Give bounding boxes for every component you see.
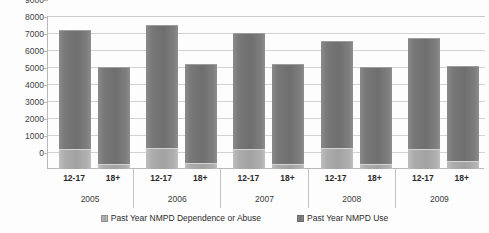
bar-2008-18+	[360, 67, 392, 169]
bar-segment-dependence-or-abuse	[233, 149, 265, 169]
y-axis: 9000800070006000500040003000200010000	[0, 0, 44, 153]
legend-swatch-use-icon	[297, 215, 304, 222]
legend-item-dependence-or-abuse: Past Year NMPD Dependence or Abuse	[101, 213, 261, 223]
x-axis-year-label: 2007	[255, 194, 274, 204]
bar-2007-12-17	[233, 33, 265, 169]
y-axis-tick-label: 3000	[0, 98, 44, 106]
bar-segment-use	[321, 41, 353, 148]
bars-layer	[48, 16, 484, 169]
age-group-cell-2009: 12-1718+	[396, 169, 483, 189]
bar-segment-dependence-or-abuse	[59, 149, 91, 169]
bar-2005-18+	[98, 67, 130, 169]
chart-legend: Past Year NMPD Dependence or Abuse Past …	[0, 210, 489, 226]
x-axis-age-label: 18+	[438, 173, 486, 183]
x-axis-year-label: 2009	[430, 194, 449, 204]
legend-swatch-dependence-icon	[101, 215, 108, 222]
legend-item-use: Past Year NMPD Use	[297, 213, 388, 223]
x-axis-age-label: 18+	[351, 173, 399, 183]
bar-2006-12-17	[146, 25, 178, 170]
bar-2005-12-17	[59, 30, 91, 169]
x-axis-year-cell: 2007	[221, 189, 308, 208]
bar-group-2005	[48, 16, 135, 169]
bar-chart: 9000800070006000500040003000200010000 12…	[0, 0, 489, 233]
bar-segment-use	[408, 38, 440, 149]
y-axis-tick-label: 1000	[0, 132, 44, 140]
y-axis-tick-label: 2000	[0, 115, 44, 123]
bar-segment-dependence-or-abuse	[447, 161, 479, 169]
bar-group-2009	[397, 16, 484, 169]
y-axis-tick-label: 5000	[0, 64, 44, 72]
bar-segment-dependence-or-abuse	[146, 148, 178, 169]
age-group-cell-2005: 12-1718+	[47, 169, 134, 189]
category-axis: 12-1718+12-1718+12-1718+12-1718+12-1718+…	[47, 169, 484, 208]
x-axis-year-label: 2005	[81, 194, 100, 204]
bar-segment-dependence-or-abuse	[321, 148, 353, 169]
x-axis-year-cell: 2009	[396, 189, 483, 208]
legend-label-use: Past Year NMPD Use	[307, 213, 388, 223]
bar-segment-use	[59, 30, 91, 149]
age-group-cell-2008: 12-1718+	[309, 169, 396, 189]
y-axis-tick-label: 4000	[0, 81, 44, 89]
y-axis-tick-label: 8000	[0, 13, 44, 21]
x-axis-year-label: 2008	[342, 194, 361, 204]
bar-group-2006	[135, 16, 222, 169]
y-axis-tick-mark	[44, 0, 48, 1]
year-label-row: 20052006200720082009	[47, 189, 484, 208]
bar-segment-use	[360, 67, 392, 164]
bar-segment-use	[272, 64, 304, 164]
bar-segment-use	[233, 33, 265, 149]
x-axis-year-cell: 2006	[134, 189, 221, 208]
bar-2008-12-17	[321, 41, 353, 169]
legend-label-dependence: Past Year NMPD Dependence or Abuse	[111, 213, 261, 223]
age-group-label-row: 12-1718+12-1718+12-1718+12-1718+12-1718+	[47, 169, 484, 189]
bar-segment-use	[146, 25, 178, 148]
x-axis-year-cell: 2008	[309, 189, 396, 208]
bar-2009-18+	[447, 66, 479, 169]
x-axis-year-cell: 2005	[47, 189, 134, 208]
x-axis-age-label: 18+	[89, 173, 137, 183]
y-axis-tick-label: 6000	[0, 47, 44, 55]
x-axis-age-label: 18+	[176, 173, 224, 183]
y-axis-tick-label: 9000	[0, 0, 44, 4]
bar-segment-use	[447, 66, 479, 161]
y-axis-tick-label: 7000	[0, 30, 44, 38]
bar-2006-18+	[185, 64, 217, 169]
age-group-cell-2006: 12-1718+	[134, 169, 221, 189]
bar-group-2007	[222, 16, 309, 169]
bar-2007-18+	[272, 64, 304, 169]
bar-segment-dependence-or-abuse	[408, 149, 440, 169]
x-axis-age-label: 18+	[263, 173, 311, 183]
x-axis-year-label: 2006	[168, 194, 187, 204]
bar-2009-12-17	[408, 38, 440, 169]
bar-group-2008	[310, 16, 397, 169]
bar-segment-use	[98, 67, 130, 164]
y-axis-tick-label: 0	[0, 149, 44, 157]
age-group-cell-2007: 12-1718+	[221, 169, 308, 189]
bar-segment-use	[185, 64, 217, 163]
